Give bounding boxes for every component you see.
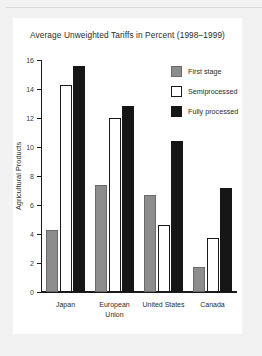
y-axis-tick-mark [37, 234, 42, 235]
y-axis-tick-mark [37, 60, 42, 61]
x-axis-category-label-line: Canada [188, 300, 237, 310]
x-axis-category-label: Japan [41, 300, 90, 310]
bar-group [44, 60, 87, 292]
x-axis-category-label-line: United States [139, 300, 188, 310]
y-axis-tick-mark [37, 176, 42, 177]
legend-swatch-first-stage [171, 66, 182, 77]
y-axis-title: Agricultural Products [14, 142, 23, 210]
x-axis-category-label: Canada [188, 300, 237, 310]
y-axis-tick-label: 0 [30, 289, 34, 296]
legend-item[interactable]: Semiprocessed [171, 86, 238, 97]
bar-first-stage[interactable] [193, 267, 205, 292]
bar-first-stage[interactable] [95, 185, 107, 292]
chart-legend: First stageSemiprocessedFully processed [171, 66, 238, 117]
x-axis-category-label-line: Union [90, 310, 139, 320]
bar-group [93, 60, 136, 292]
y-axis-tick-label: 10 [26, 144, 34, 151]
y-axis-tick-mark [37, 292, 42, 293]
bar-first-stage[interactable] [144, 195, 156, 292]
bar-semiprocessed[interactable] [109, 118, 121, 292]
y-axis-tick-mark [37, 147, 42, 148]
legend-item[interactable]: First stage [171, 66, 238, 77]
legend-swatch-semiprocessed [171, 86, 182, 97]
legend-item-label: Fully processed [188, 107, 238, 116]
x-axis-category-label-line: European [90, 300, 139, 310]
legend-item[interactable]: Fully processed [171, 106, 238, 117]
x-axis-category-label: EuropeanUnion [90, 300, 139, 319]
bar-fully-processed[interactable] [73, 66, 85, 292]
bar-semiprocessed[interactable] [207, 238, 219, 292]
legend-item-label: Semiprocessed [188, 87, 238, 96]
y-axis-tick-label: 2 [30, 260, 34, 267]
page-top-rule [6, 7, 262, 8]
y-axis-tick-label: 8 [30, 173, 34, 180]
y-axis-tick-mark [37, 89, 42, 90]
y-axis-tick-mark [37, 263, 42, 264]
chart-title: Average Unweighted Tariffs in Percent (1… [13, 30, 242, 40]
y-axis-tick-mark [37, 205, 42, 206]
x-axis-category-label: United States [139, 300, 188, 310]
bar-fully-processed[interactable] [171, 141, 183, 292]
y-axis-tick-label: 16 [26, 57, 34, 64]
bar-fully-processed[interactable] [122, 106, 134, 292]
y-axis-tick-label: 6 [30, 202, 34, 209]
bar-semiprocessed[interactable] [60, 85, 72, 292]
bar-fully-processed[interactable] [220, 188, 232, 292]
y-axis-tick-mark [37, 118, 42, 119]
page-scene: Average Unweighted Tariffs in Percent (1… [0, 0, 262, 356]
figure-panel: Average Unweighted Tariffs in Percent (1… [13, 18, 242, 334]
bar-first-stage[interactable] [46, 230, 58, 292]
y-axis-tick-label: 14 [26, 86, 34, 93]
legend-swatch-fully-processed [171, 106, 182, 117]
bar-semiprocessed[interactable] [158, 225, 170, 292]
y-axis-tick-label: 12 [26, 115, 34, 122]
x-axis-category-label-line: Japan [41, 300, 90, 310]
legend-item-label: First stage [188, 67, 222, 76]
y-axis-tick-label: 4 [30, 231, 34, 238]
